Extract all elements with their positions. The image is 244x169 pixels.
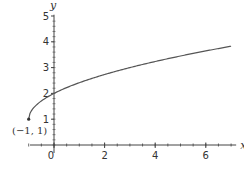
x-tick-label: 4	[152, 150, 158, 161]
y-tick-label: 3	[43, 62, 49, 73]
x-tick-label: 0	[48, 150, 54, 161]
x-tick-label: 2	[101, 150, 107, 161]
curve-line	[29, 46, 231, 119]
y-tick-label: 4	[43, 36, 49, 47]
y-tick-label: 1	[43, 114, 49, 125]
start-point-marker	[27, 118, 30, 121]
start-point-label: (−1, 1)	[12, 125, 47, 136]
chart: 024612345 (−1, 1) x y	[0, 0, 244, 169]
y-axis-label: y	[49, 0, 57, 12]
x-axis-label: x	[240, 139, 244, 152]
axes: 024612345	[29, 11, 236, 162]
y-tick-label: 5	[43, 11, 49, 22]
x-tick-label: 6	[203, 150, 209, 161]
